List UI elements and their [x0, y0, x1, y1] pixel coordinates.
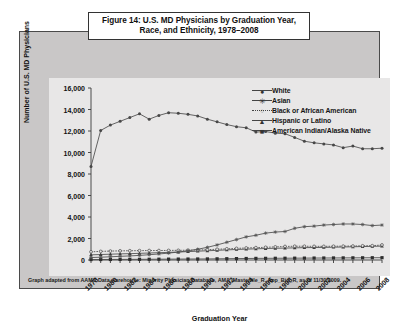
y-axis-title: Number of U.S. MD Physicians: [23, 12, 30, 132]
chart-legend: ●White✳Asian○Black or African American▲H…: [252, 86, 371, 136]
legend-marker-open-circle-dotted-icon: ○: [252, 106, 272, 115]
figure-panel: ●White✳Asian○Black or African American▲H…: [19, 31, 380, 289]
y-tick-label: 2,000: [53, 235, 85, 242]
y-tick-label: 6,000: [53, 192, 85, 199]
y-tick-labels: 02,0004,0006,0008,00010,00012,00014,0001…: [49, 78, 85, 276]
legend-label: White: [272, 87, 291, 94]
legend-item-american-indian-alaska-native[interactable]: ■American Indian/Alaska Native: [252, 126, 371, 135]
y-tick-label: 4,000: [53, 214, 85, 221]
figure-title-line-1: Figure 14: U.S. MD Physicians by Graduat…: [95, 16, 303, 26]
legend-label: American Indian/Alaska Native: [272, 127, 371, 134]
legend-marker-triangle-icon: ▲: [252, 116, 272, 125]
legend-item-black-or-african-american[interactable]: ○Black or African American: [252, 106, 371, 115]
plot-area: ●White✳Asian○Black or African American▲H…: [49, 78, 390, 276]
figure-footnote: Graph adapted from AAMC Data warehouse: …: [28, 277, 341, 283]
y-tick-label: 8,000: [53, 171, 85, 178]
legend-marker-asterisk-icon: ✳: [252, 96, 272, 105]
y-tick-label: 10,000: [53, 149, 85, 156]
legend-item-hispanic-or-latino[interactable]: ▲Hispanic or Latino: [252, 116, 371, 125]
y-tick-label: 12,000: [53, 128, 85, 135]
figure-title-line-2: Race, and Ethnicity, 1978–2008: [95, 26, 303, 36]
x-tick-label: 2006: [355, 276, 371, 292]
x-axis-title: Graduation Year: [49, 314, 390, 323]
legend-item-white[interactable]: ●White: [252, 86, 371, 95]
x-tick-labels: Graduation Year 197819801982198419861988…: [49, 276, 390, 325]
legend-label: Asian: [272, 97, 291, 104]
figure-title-box: Figure 14: U.S. MD Physicians by Graduat…: [88, 12, 310, 40]
y-tick-label: 14,000: [53, 106, 85, 113]
legend-marker-circle-icon: ●: [252, 86, 272, 95]
legend-item-asian[interactable]: ✳Asian: [252, 96, 371, 105]
legend-label: Hispanic or Latino: [272, 117, 331, 124]
x-tick-label: 2008: [375, 276, 391, 292]
y-tick-label: 16,000: [53, 85, 85, 92]
legend-label: Black or African American: [272, 107, 356, 114]
y-tick-label: 0: [53, 257, 85, 264]
legend-marker-square-icon: ■: [252, 126, 272, 135]
